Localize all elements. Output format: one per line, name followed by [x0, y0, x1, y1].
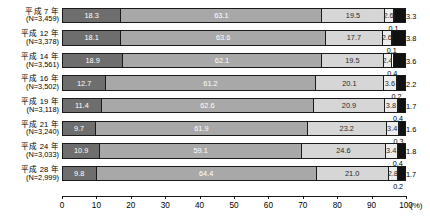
row-label: 平成 19 年(N=3,118) — [0, 98, 62, 113]
stacked-bar: 11.462.620.93.80.41.7 — [62, 98, 406, 114]
stacked-bar-chart: 平成 7 年(N=3,459)18.363.119.52.60.13.3平成 1… — [0, 0, 430, 222]
segment-value-label: 3.6 — [385, 79, 395, 88]
bar-segment: 19.5 — [322, 54, 384, 68]
bar-segment: 20.1 — [316, 76, 385, 90]
bar-segment: 2.6 — [383, 31, 392, 45]
row-label: 平成 24 年(N=3,033) — [0, 143, 62, 158]
segment-value-label: 3.6 — [406, 57, 416, 66]
row-label-sample-size: (N=3,502) — [0, 83, 59, 91]
row-label-sample-size: (N=3,118) — [0, 106, 59, 114]
segment-value-label: 24.6 — [336, 146, 350, 155]
row-label: 平成 21 年(N=3,240) — [0, 121, 62, 136]
segment-value-label: 62.6 — [200, 101, 214, 110]
row-label-sample-size: (N=3,378) — [0, 38, 59, 46]
segment-value-label: 10.9 — [74, 146, 88, 155]
bar-segment: 59.1 — [100, 144, 302, 158]
segment-value-label: 12.7 — [77, 79, 91, 88]
stacked-bar: 9.864.421.02.80.21.7 — [62, 166, 406, 182]
bar-segment: 1.7 — [399, 167, 405, 181]
bar-segment: 61.9 — [96, 122, 308, 136]
stacked-bar: 18.962.119.52.40.43.6 — [62, 53, 406, 69]
bar-segment: 18.9 — [63, 54, 123, 68]
segment-value-label: 17.7 — [347, 33, 361, 42]
bar-segment: 1.7 — [399, 99, 405, 113]
x-axis-unit-label: (%) — [410, 201, 422, 210]
segment-value-label: 18.9 — [86, 56, 100, 65]
bar-segment: 21.0 — [317, 167, 389, 181]
bar-segment: 19.5 — [322, 9, 384, 23]
chart-row: 平成 7 年(N=3,459)18.363.119.52.60.13.3 — [0, 4, 430, 27]
row-label: 平成 7 年(N=3,459) — [0, 8, 62, 23]
x-axis-tick — [406, 196, 407, 199]
bar-segment: 10.9 — [63, 144, 100, 158]
x-axis-tick — [200, 196, 201, 199]
segment-value-label: 62.1 — [215, 56, 229, 65]
x-axis-tick — [234, 196, 235, 199]
row-label: 平成 16 年(N=3,502) — [0, 75, 62, 90]
bar-segment: 12.7 — [63, 76, 106, 90]
chart-row: 平成 28 年(N=2,999)9.864.421.02.80.21.7 — [0, 162, 430, 185]
segment-value-label: 2.2 — [406, 80, 416, 89]
segment-value-label: 3.8 — [406, 34, 416, 43]
x-axis-tick — [165, 196, 166, 199]
chart-row: 平成 19 年(N=3,118)11.462.620.93.80.41.7 — [0, 94, 430, 117]
x-axis-tick-label: 50 — [229, 201, 238, 210]
bar-segment: 2.4 — [384, 54, 392, 68]
x-axis-tick — [131, 196, 132, 199]
x-axis-tick-label: 30 — [161, 201, 170, 210]
chart-row: 平成 16 年(N=3,502)12.761.220.13.60.22.2 — [0, 72, 430, 95]
x-axis-tick — [96, 196, 97, 199]
bar-segment: 64.4 — [97, 167, 317, 181]
segment-value-label: 61.2 — [203, 79, 217, 88]
segment-value-label: 63.6 — [216, 33, 230, 42]
segment-value-label: 59.1 — [193, 146, 207, 155]
row-label-sample-size: (N=3,033) — [0, 151, 59, 159]
chart-row: 平成 12 年(N=3,378)18.163.617.72.60.13.8 — [0, 27, 430, 50]
bar-segment: 2.2 — [398, 76, 406, 90]
bar-segment: 18.3 — [63, 9, 121, 23]
bar-segment: 24.6 — [302, 144, 386, 158]
stacked-bar: 9.761.923.23.40.31.6 — [62, 121, 406, 137]
x-axis-tick — [62, 196, 63, 199]
segment-value-label: 2.4 — [382, 56, 392, 65]
segment-value-label: 19.5 — [345, 56, 359, 65]
x-axis-tick — [337, 196, 338, 199]
segment-value-label: 0.2 — [393, 182, 403, 191]
row-label-sample-size: (N=3,459) — [0, 15, 59, 23]
stacked-bar: 12.761.220.13.60.22.2 — [62, 75, 406, 91]
row-label: 平成 28 年(N=2,999) — [0, 166, 62, 181]
bar-segment: 2.6 — [385, 9, 394, 23]
chart-row: 平成 14 年(N=3,561)18.962.119.52.40.43.6 — [0, 49, 430, 72]
x-axis-tick-label: 60 — [264, 201, 273, 210]
x-axis-tick-label: 90 — [367, 201, 376, 210]
row-label: 平成 12 年(N=3,378) — [0, 30, 62, 45]
row-label-sample-size: (N=3,240) — [0, 128, 59, 136]
segment-value-label: 61.9 — [194, 124, 208, 133]
segment-value-label: 18.1 — [84, 33, 98, 42]
x-axis-tick-label: 40 — [195, 201, 204, 210]
x-axis-tick-label: 0 — [60, 201, 65, 210]
segment-value-label: 19.5 — [346, 11, 360, 20]
bar-segment: 63.6 — [121, 31, 326, 45]
segment-value-label: 23.2 — [340, 124, 354, 133]
stacked-bar: 18.163.617.72.60.13.8 — [62, 30, 406, 46]
bar-segment: 3.3 — [395, 9, 406, 23]
bar-segment: 63.1 — [121, 9, 322, 23]
bar-segment: 61.2 — [106, 76, 315, 90]
segment-value-label: 3.4 — [386, 146, 396, 155]
segment-value-label: 18.3 — [84, 11, 98, 20]
segment-value-label: 2.6 — [383, 11, 393, 20]
segment-value-label: 3.4 — [387, 124, 397, 133]
bar-segment: 1.8 — [399, 144, 405, 158]
segment-value-label: 64.4 — [199, 169, 213, 178]
bar-segment: 3.6 — [384, 76, 396, 90]
segment-value-label: 11.4 — [75, 101, 89, 110]
segment-value-label: 63.1 — [214, 11, 228, 20]
bar-segment: 1.6 — [400, 122, 405, 136]
segment-value-label: 1.7 — [406, 170, 416, 179]
chart-row: 平成 24 年(N=3,033)10.959.124.63.40.41.8 — [0, 140, 430, 163]
chart-row: 平成 21 年(N=3,240)9.761.923.23.40.31.6 — [0, 117, 430, 140]
bar-segment: 9.8 — [63, 167, 97, 181]
x-axis: 0102030405060708090100 — [62, 196, 406, 197]
bar-segment: 2.8 — [389, 167, 399, 181]
